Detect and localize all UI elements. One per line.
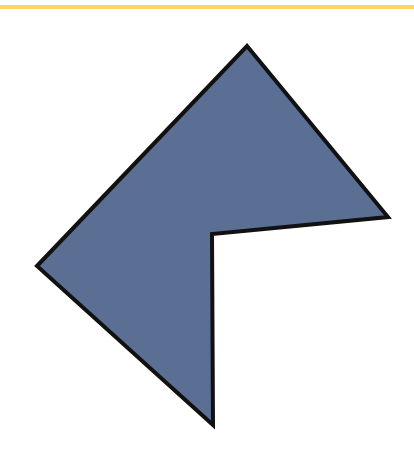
diagram-canvas	[0, 0, 414, 471]
concave-pentagon-shape	[37, 46, 388, 425]
